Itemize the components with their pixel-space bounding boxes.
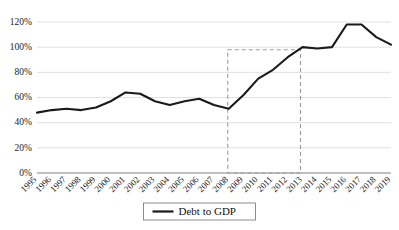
data-series xyxy=(37,25,391,113)
chart-legend[interactable]: Debt to GDP xyxy=(144,203,256,220)
y-tick-label: 60% xyxy=(15,92,33,102)
series-line-debt-to-gdp xyxy=(37,25,391,113)
chart-canvas: 0%20%40%60%80%100%120% 19951996199719981… xyxy=(0,0,399,230)
crisis-highlight-box xyxy=(228,50,301,173)
y-tick-label: 40% xyxy=(15,117,33,127)
x-tick-label: 2019 xyxy=(373,174,393,194)
y-tick-label: 100% xyxy=(10,42,32,52)
y-tick-label: 80% xyxy=(15,67,33,77)
y-tick-label: 120% xyxy=(10,17,32,27)
y-tick-label: 20% xyxy=(15,143,33,153)
y-axis-tick-labels: 0%20%40%60%80%100%120% xyxy=(10,17,32,178)
chart-annotations xyxy=(228,50,301,173)
gridlines xyxy=(37,22,391,148)
x-axis-tick-labels: 1995199619971998199920002001200220032004… xyxy=(19,174,393,194)
debt-to-gdp-chart: 0%20%40%60%80%100%120% 19951996199719981… xyxy=(0,0,399,230)
legend-label-debt-to-gdp: Debt to GDP xyxy=(179,205,236,217)
